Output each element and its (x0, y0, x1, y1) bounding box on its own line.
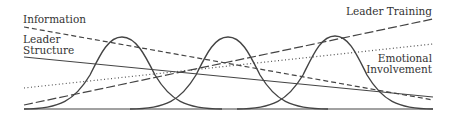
leader-training-line (24, 19, 433, 105)
label-leader-training: Leader Training (346, 6, 432, 17)
label-information: Information (23, 14, 86, 25)
label-involvement: Involvement (366, 64, 432, 75)
diagram: Information Leader Structure Leader Trai… (0, 0, 456, 117)
label-structure: Structure (23, 45, 74, 56)
